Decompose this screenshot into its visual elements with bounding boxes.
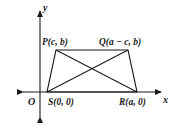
vertex-label-p: P(c, b) <box>42 38 68 48</box>
diagonal-sq-line <box>47 50 128 92</box>
origin-label: O <box>28 97 35 107</box>
geometry-figure: P(c, b) Q(a − c, b) S(0, 0) R(a, 0) O x … <box>0 0 178 127</box>
trapezoid-outline <box>47 50 137 92</box>
vertex-label-q: Q(a − c, b) <box>99 38 141 48</box>
coordinate-plane-drawing <box>0 0 178 127</box>
diagonal-pr-line <box>56 50 137 92</box>
x-axis-label: x <box>163 95 168 105</box>
vertex-label-r: R(a, 0) <box>119 98 146 108</box>
vertex-label-s: S(0, 0) <box>48 98 74 108</box>
y-axis-label: y <box>43 3 47 13</box>
